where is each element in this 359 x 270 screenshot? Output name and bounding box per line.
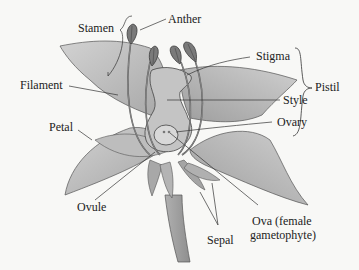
ovule-dot [163, 131, 166, 134]
stamen-label: Stamen [78, 22, 114, 35]
ovary-chamber [154, 125, 178, 145]
ova-label-line2: gametophyte) [250, 229, 316, 242]
ova-label-line1: Ova (female [252, 215, 312, 228]
style-label: Style [283, 94, 308, 107]
stem [165, 195, 190, 262]
flower-diagram: Stamen Anther Filament Petal Stigma Styl… [0, 0, 359, 270]
stigma-label: Stigma [256, 50, 290, 63]
pistil-label: Pistil [315, 81, 340, 94]
petal-lower-right [190, 131, 308, 205]
sepal-label: Sepal [207, 234, 234, 247]
ovule-label: Ovule [77, 201, 106, 214]
ovule-dot [168, 131, 171, 134]
sepal [160, 162, 173, 198]
filament-label: Filament [20, 79, 63, 92]
petal-label: Petal [49, 121, 73, 134]
petal-upper-right [180, 66, 297, 121]
anther-label: Anther [168, 13, 201, 26]
ovary-label: Ovary [277, 116, 307, 129]
